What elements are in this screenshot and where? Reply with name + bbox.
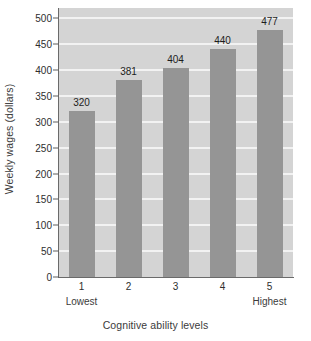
x-tick-sublabel: Highest <box>235 296 305 307</box>
bar-value-label: 477 <box>250 16 290 27</box>
y-tick-label: 100 <box>22 220 52 231</box>
bar[interactable] <box>210 49 236 277</box>
x-tick-label: 5 <box>250 281 290 292</box>
plot-area <box>58 8 293 277</box>
y-axis-title: Weekly wages (dollars) <box>0 0 18 277</box>
x-tick-sublabel: Lowest <box>47 296 117 307</box>
y-tick-label: 150 <box>22 194 52 205</box>
bar[interactable] <box>257 30 283 277</box>
y-tick-label: 0 <box>22 272 52 283</box>
x-axis-line <box>58 277 294 278</box>
bar-value-label: 440 <box>203 35 243 46</box>
x-axis-title: Cognitive ability levels <box>0 319 311 331</box>
x-tick-label: 4 <box>203 281 243 292</box>
y-tick-label: 50 <box>22 246 52 257</box>
y-tick-label: 250 <box>22 142 52 153</box>
bar-chart-figure: Weekly wages (dollars) 05010015020025030… <box>0 0 311 341</box>
y-tick-label: 400 <box>22 65 52 76</box>
y-tick-label: 500 <box>22 13 52 24</box>
y-tick-label: 350 <box>22 90 52 101</box>
bar[interactable] <box>69 111 95 277</box>
y-tick-label: 300 <box>22 116 52 127</box>
bar-value-label: 381 <box>109 66 149 77</box>
y-tick-label: 200 <box>22 168 52 179</box>
bar-value-label: 404 <box>156 54 196 65</box>
x-tick-label: 2 <box>109 281 149 292</box>
bar-value-label: 320 <box>62 97 102 108</box>
x-tick-label: 1 <box>62 281 102 292</box>
y-tick-label: 450 <box>22 39 52 50</box>
bar[interactable] <box>163 68 189 277</box>
bar[interactable] <box>116 80 142 277</box>
y-axis-title-text: Weekly wages (dollars) <box>3 83 15 194</box>
x-tick-label: 3 <box>156 281 196 292</box>
y-axis-line <box>58 8 59 277</box>
